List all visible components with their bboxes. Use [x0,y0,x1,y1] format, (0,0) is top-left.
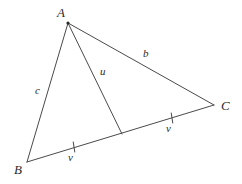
vertex-dot-a [66,21,69,24]
vertex-label-a: A [57,6,65,19]
median-label-u: u [100,66,106,77]
vertex-label-b: B [14,163,22,176]
segment-ac [68,23,214,105]
segment-bc [27,105,214,162]
geometry-diagram: A B C c b u v v [0,0,242,184]
side-label-c: c [35,85,40,96]
segment-median-am [68,23,122,134]
segment-label-v-left: v [68,152,73,163]
segment-label-v-right: v [166,123,171,134]
vertex-label-c: C [221,99,230,112]
segment-ab [27,23,68,162]
side-label-b: b [143,48,149,59]
